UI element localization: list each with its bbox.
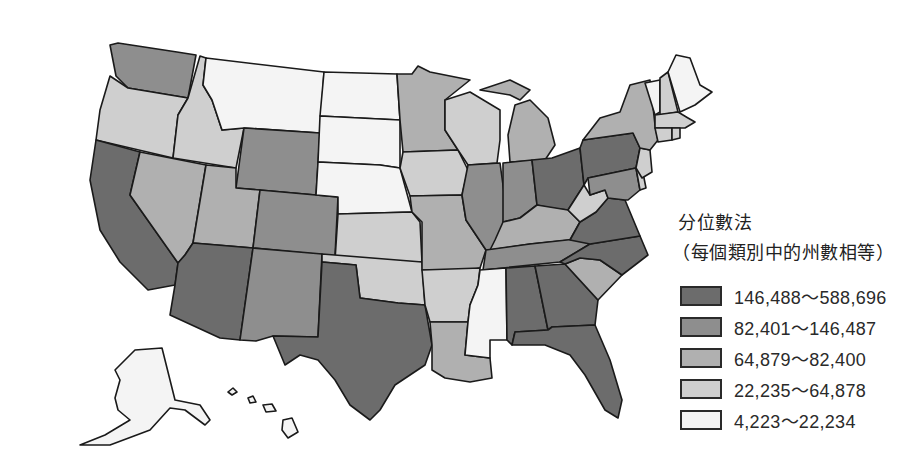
state-SD [318,116,400,168]
legend-swatch [680,410,722,430]
legend-item: 22,235～64,878 [680,373,894,404]
state-MT [203,58,324,133]
legend-subtitle: （每個類別中的州數相等） [672,242,894,264]
legend-label: 146,488～588,696 [734,283,887,309]
state-MA [655,112,695,128]
state-RI [672,128,680,140]
state-AZ [170,243,253,340]
legend-label: 82,401～146,487 [734,314,876,340]
legend-label: 4,223～22,234 [734,407,856,433]
state-NJ [636,148,652,178]
state-ND [320,72,400,120]
legend-item: 146,488～588,696 [680,280,894,311]
state-HI [228,388,298,438]
legend-swatch [680,317,722,337]
state-AK [80,348,210,445]
legend-swatch [680,286,722,306]
state-CT [655,128,672,142]
state-WY [236,128,320,195]
legend-item: 4,223～22,234 [680,404,894,435]
legend: 分位數法 （每個類別中的州數相等） 146,488～588,696 82,401… [680,212,894,435]
state-NM [240,248,322,341]
state-CO [253,190,338,256]
legend-item: 64,879～82,400 [680,342,894,373]
legend-swatch [680,348,722,368]
legend-item: 82,401～146,487 [680,311,894,342]
state-FL [512,325,622,418]
legend-label: 64,879～82,400 [734,345,866,371]
legend-items: 146,488～588,696 82,401～146,487 64,879～82… [680,280,894,435]
state-IA [400,150,468,196]
legend-swatch [680,379,722,399]
legend-title: 分位數法 [678,212,894,234]
legend-label: 22,235～64,878 [734,376,866,402]
state-KS [335,212,422,262]
